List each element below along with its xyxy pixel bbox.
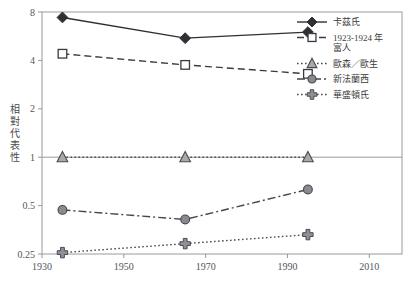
data-series [57, 12, 313, 44]
x-tick-label: 1970 [196, 261, 216, 272]
legend-label: 卡茲氏 [333, 16, 360, 27]
line-chart: 0.250.5124819301950197019902010相對代表性卡茲氏1… [0, 0, 414, 287]
y-tick-label: 2 [30, 103, 35, 114]
data-point-marker [303, 229, 313, 239]
data-point-marker [303, 151, 314, 161]
y-tick-label: 4 [30, 55, 35, 66]
data-series [58, 185, 312, 224]
legend-item[interactable]: 卡茲氏 [297, 16, 360, 27]
legend-label: 新法蘭西 [333, 73, 369, 84]
legend-marker-sample [307, 58, 317, 67]
legend-label: 華盛頓氏 [333, 89, 369, 100]
x-tick-label: 1990 [277, 261, 297, 272]
data-series [57, 151, 313, 161]
legend-label-line2: 富人 [333, 42, 351, 53]
series-group [57, 12, 313, 258]
legend-marker-sample [307, 90, 317, 100]
y-axis-label-char: 對 [10, 115, 20, 127]
y-axis: 0.250.51248 [18, 7, 43, 260]
legend-item[interactable]: 歐森／歐生 [297, 58, 378, 69]
y-tick-label: 1 [30, 152, 35, 163]
legend-marker-sample [308, 34, 316, 42]
y-axis-label: 相對代表性 [10, 103, 20, 164]
data-point-marker [57, 247, 67, 257]
y-axis-label-char: 表 [10, 139, 20, 151]
data-point-marker [181, 61, 190, 70]
data-point-marker [58, 49, 67, 58]
data-point-marker [180, 151, 191, 161]
x-tick-label: 1950 [114, 261, 134, 272]
data-point-marker [180, 238, 190, 248]
legend-label: 歐森／歐生 [333, 58, 378, 69]
y-axis-label-char: 性 [10, 151, 20, 163]
y-tick-label: 8 [30, 7, 35, 18]
x-tick-label: 1930 [32, 261, 52, 272]
y-axis-label-char: 相 [10, 103, 20, 115]
data-series [58, 49, 312, 78]
data-point-marker [57, 151, 68, 161]
legend-item[interactable]: 1923-1924 年富人 [297, 32, 383, 54]
legend-item[interactable]: 華盛頓氏 [297, 89, 369, 100]
legend-label: 1923-1924 年 [333, 32, 383, 43]
legend-marker-sample [308, 75, 316, 83]
x-axis: 19301950197019902010 [32, 254, 379, 272]
data-point-marker [181, 215, 190, 224]
legend-marker-sample [307, 17, 317, 27]
y-tick-label: 0.25 [18, 249, 36, 260]
data-point-marker [180, 33, 191, 44]
data-point-marker [304, 185, 313, 194]
data-point-marker [58, 206, 67, 215]
y-tick-label: 0.5 [23, 200, 36, 211]
y-axis-label-char: 代 [10, 128, 20, 139]
chart-container: 0.250.5124819301950197019902010相對代表性卡茲氏1… [0, 0, 414, 287]
data-point-marker [57, 12, 68, 23]
x-tick-label: 2010 [359, 261, 379, 272]
